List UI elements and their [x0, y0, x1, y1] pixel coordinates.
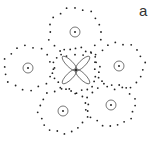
membrane-dot — [4, 58, 6, 60]
membrane-dot — [30, 90, 32, 92]
membrane-dot — [144, 62, 146, 64]
membrane-dot — [118, 84, 120, 86]
membrane-dot — [49, 76, 51, 78]
membrane-dot — [48, 39, 50, 41]
membrane-dot — [86, 97, 88, 99]
membrane-dot — [5, 73, 7, 75]
membrane-dot — [136, 82, 138, 84]
membrane-dot — [39, 105, 41, 107]
membrane-dot — [53, 61, 55, 63]
membrane-dot — [54, 67, 56, 69]
membrane-dot — [90, 116, 92, 118]
membrane-dot — [60, 54, 62, 56]
membrane-dot — [94, 68, 96, 70]
membrane-dot — [66, 7, 68, 9]
membrane-dot — [56, 130, 58, 132]
membrane-dot — [85, 109, 87, 111]
membrane-dot — [102, 49, 104, 51]
membrane-dot — [77, 127, 79, 129]
membrane-dot — [132, 111, 134, 113]
membrane-dot — [98, 77, 100, 79]
membrane-dot — [85, 51, 87, 53]
membrane-dot — [32, 47, 34, 49]
membrane-dot — [54, 45, 56, 47]
membrane-dot — [57, 81, 59, 83]
membrane-dot — [82, 122, 84, 124]
membrane-dot — [114, 42, 116, 44]
membrane-dot — [80, 47, 82, 49]
membrane-dot — [46, 54, 48, 56]
membrane-dot — [97, 87, 99, 89]
membrane-dot — [102, 125, 104, 127]
membrane-dot — [43, 124, 45, 126]
cell-diagram — [0, 0, 161, 141]
membrane-dot — [16, 47, 18, 49]
membrane-dot — [92, 92, 94, 94]
membrane-dot — [111, 84, 113, 86]
membrane-dot — [134, 105, 136, 107]
membrane-dot — [130, 87, 132, 89]
neighbor-cell-bottom-right-nucleolus-dot — [110, 104, 112, 106]
neighbor-cell-right-membrane — [94, 42, 146, 91]
membrane-dot — [94, 56, 96, 58]
membrane-dot — [71, 131, 73, 133]
membrane-dot — [85, 102, 87, 104]
membrane-dot — [65, 88, 67, 90]
membrane-dot — [87, 104, 89, 106]
neighbor-cell-left-membrane — [4, 44, 55, 91]
membrane-dot — [42, 99, 44, 101]
membrane-dot — [90, 11, 92, 13]
membrane-dot — [59, 50, 61, 52]
membrane-dot — [100, 39, 102, 41]
membrane-dot — [60, 13, 62, 15]
membrane-dot — [54, 91, 56, 93]
membrane-dot — [87, 110, 89, 112]
membrane-dot — [94, 44, 96, 46]
membrane-dot — [125, 87, 127, 89]
membrane-dot — [49, 61, 51, 63]
membrane-dot — [134, 98, 136, 100]
membrane-dot — [98, 24, 100, 26]
membrane-dot — [68, 88, 70, 90]
membrane-dot — [76, 92, 78, 94]
membrane-dot — [87, 116, 89, 118]
membrane-dot — [70, 90, 72, 92]
membrane-dot — [86, 89, 88, 91]
membrane-dot — [99, 66, 101, 68]
membrane-dot — [114, 89, 116, 91]
membrane-dot — [22, 89, 24, 91]
membrane-dot — [95, 17, 97, 19]
membrane-dot — [63, 49, 65, 51]
membrane-dot — [49, 24, 51, 26]
membrane-dot — [95, 54, 97, 56]
membrane-dot — [74, 7, 76, 9]
membrane-dot — [49, 31, 51, 33]
membrane-dot — [10, 53, 12, 55]
membrane-dot — [37, 111, 39, 113]
membrane-dot — [52, 72, 54, 74]
membrane-dot — [75, 48, 77, 50]
membrane-dot — [107, 44, 109, 46]
membrane-dot — [136, 49, 138, 51]
panel-label: a — [139, 2, 147, 19]
membrane-dot — [98, 71, 100, 73]
membrane-dot — [96, 120, 98, 122]
membrane-dot — [130, 118, 132, 120]
membrane-dot — [103, 83, 105, 85]
membrane-dot — [74, 54, 76, 56]
membrane-dot — [59, 87, 61, 89]
membrane-dot — [82, 9, 84, 11]
membrane-dot — [130, 44, 132, 46]
membrane-dot — [46, 83, 48, 85]
membrane-dot — [121, 87, 123, 89]
membrane-dot — [82, 96, 84, 98]
membrane-dot — [109, 125, 111, 127]
membrane-dot — [101, 80, 103, 82]
neighbor-cell-top-nucleolus-dot — [74, 31, 76, 33]
membrane-dot — [69, 49, 71, 51]
membrane-dot — [117, 124, 119, 126]
membrane-dot — [106, 86, 108, 88]
membrane-dot — [49, 129, 51, 131]
membrane-dot — [81, 89, 83, 91]
neighbor-cell-right-nucleolus-dot — [118, 65, 120, 67]
